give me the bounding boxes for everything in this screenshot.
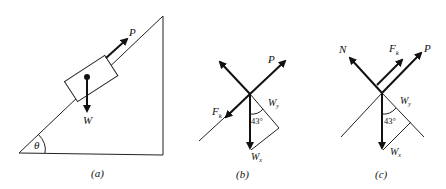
- friction-arrow: [377, 60, 402, 85]
- figure-a: θ W P (a): [19, 16, 163, 180]
- angle-label: 43°: [384, 116, 396, 126]
- force-p-label: P: [423, 42, 431, 54]
- normal-arrow: [350, 58, 382, 93]
- caption-a: (a): [91, 167, 104, 180]
- slope-line: [341, 93, 382, 137]
- figure-c: N Fk P 43° Wy Wx (c): [338, 42, 431, 181]
- angle-label: θ: [34, 139, 40, 151]
- normal-arrow: [220, 62, 250, 94]
- weight-label: W: [83, 114, 93, 126]
- caption-c: (c): [375, 168, 388, 181]
- force-p-arrow: [106, 39, 127, 58]
- angle-arc: [382, 108, 396, 114]
- weight-component-label: Wx: [390, 146, 401, 158]
- normal-label: N: [338, 43, 347, 55]
- friction-arrow: [226, 94, 250, 117]
- block: [64, 55, 117, 101]
- friction-label: Fk: [211, 105, 223, 120]
- angle-arc: [250, 109, 263, 114]
- force-p-label: P: [128, 26, 136, 38]
- force-p-arrow: [250, 61, 285, 94]
- friction-label: Fk: [388, 42, 400, 57]
- caption-b: (b): [236, 168, 249, 181]
- slope-component-label: Wy: [268, 97, 279, 109]
- figure-b: P Fk 43° Wy Wx (b): [199, 53, 285, 181]
- physics-diagram: θ W P (a) P Fk 43° Wy Wx (b) N Fk: [0, 0, 446, 189]
- weight-component-label: Wx: [251, 151, 262, 163]
- angle-label: 43°: [251, 116, 263, 126]
- component-line: [251, 128, 279, 150]
- force-p-label: P: [267, 53, 275, 65]
- slope-component-label: Wy: [400, 95, 411, 107]
